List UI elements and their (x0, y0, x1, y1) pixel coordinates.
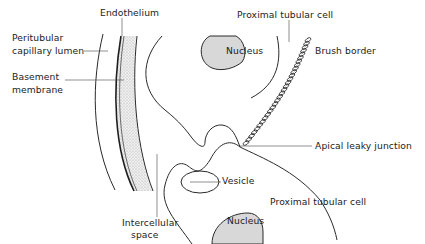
label-basement-2: membrane (12, 85, 63, 95)
label-vesicle: Vesicle (222, 176, 255, 186)
tubule-diagram: Endothelium Peritubular capillary lumen … (0, 0, 425, 244)
label-proximal-top: Proximal tubular cell (237, 10, 333, 20)
label-basement-1: Basement (12, 72, 59, 82)
capillary-wall-outer (95, 34, 115, 190)
label-brush-border: Brush border (315, 46, 376, 56)
label-peritubular-2: capillary lumen (12, 46, 84, 56)
label-nucleus-bottom: Nucleus (227, 216, 264, 226)
label-apical-junction: Apical leaky junction (315, 141, 412, 151)
label-intercellular-1: Intercellular (122, 218, 178, 228)
diagram-drawing (0, 0, 425, 244)
label-peritubular-1: Peritubular (12, 33, 63, 43)
label-intercellular-2: space (131, 230, 158, 240)
basement-membrane-band (117, 36, 152, 191)
label-endothelium: Endothelium (100, 8, 159, 18)
label-nucleus-top: Nucleus (226, 46, 263, 56)
label-proximal-bottom: Proximal tubular cell (270, 197, 366, 207)
